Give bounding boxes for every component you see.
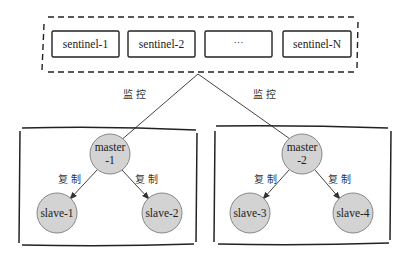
sentinel-label-1: sentinel-1 <box>52 31 119 57</box>
monitor-label-left: 监控 <box>123 86 149 101</box>
slave-3-label: slave-3 <box>228 206 272 220</box>
master-2-label-line2: -2 <box>280 154 324 167</box>
master-2-label-line1: master <box>280 141 324 154</box>
replicate-label-m2-s3: 复制 <box>254 171 280 186</box>
sentinel-label-2: sentinel-2 <box>128 31 195 57</box>
slave-2-label: slave-2 <box>140 206 184 220</box>
replicate-label-m2-s4: 复制 <box>328 171 354 186</box>
sentinel-label-n: sentinel-N <box>283 31 351 57</box>
monitor-arrow-right <box>198 74 300 146</box>
replicate-label-m1-s2: 复制 <box>135 171 161 186</box>
slave-4-label: slave-4 <box>331 206 375 220</box>
monitor-label-right: 监控 <box>253 86 279 101</box>
master-1-label-line1: master <box>88 141 132 154</box>
slave-1-label: slave-1 <box>35 206 79 220</box>
master-1-label-line2: -1 <box>88 154 132 167</box>
replicate-label-m1-s1: 复制 <box>58 171 84 186</box>
sentinel-label-ellipsis: ··· <box>205 29 272 55</box>
